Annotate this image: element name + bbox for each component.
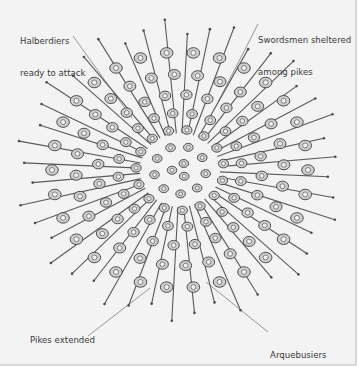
label-swordsmen: Swordsmen sheltered among pikes: [258, 14, 351, 98]
label-halberdiers: Halberdiers ready to attack: [20, 15, 86, 99]
diagram-frame: Halberdiers ready to attack Swordsmen sh…: [0, 0, 357, 366]
label-pikes: Pikes extended in all directions: [30, 314, 95, 366]
label-arquebusiers: Arquebusiers in third row: [270, 329, 327, 366]
